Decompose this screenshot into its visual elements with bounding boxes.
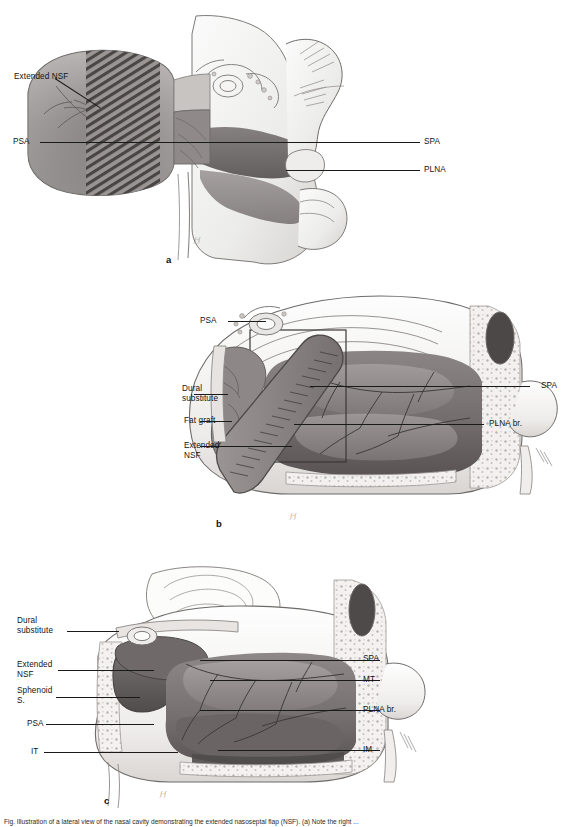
label-psa-a: PSA [13,137,30,147]
leader-extended-nsf-c [58,670,154,671]
leader-sphenoid-sinus-c [56,697,140,698]
label-psa-b: PSA [200,316,217,326]
panel-b-artwork [170,286,581,536]
leader-plna [286,170,420,171]
label-spa-c: SPA [363,654,379,664]
leader-psa [40,142,330,143]
label-plna-br-b: PLNA br. [489,419,522,429]
artist-signature-a: ʃᵕʃ [194,236,201,244]
label-dural-substitute-c: Dural substitute [17,616,53,635]
leader-it-c [44,752,178,753]
leader-plna-br-b [294,424,484,425]
artist-signature-c: ʃᵕʃ [160,790,167,798]
label-mt-c: MT [363,675,375,685]
label-extended-nsf-c: Extended NSF [17,660,52,679]
label-plna-br-c: PLNA br. [363,705,396,715]
leader-spa [290,142,420,143]
label-psa-c: PSA [27,719,44,729]
panel-a-artwork [0,14,581,276]
leader-mt-c [210,680,380,681]
panel-c [60,566,460,810]
leader-psa-c [46,724,154,725]
leader-spa-c [200,660,380,661]
leader-dural-substitute-c [67,631,119,632]
leader-im-c [218,750,380,751]
panel-b [170,286,581,536]
panel-letter-a: a [166,254,171,265]
figure-root: Extended NSF PSA SPA PLNA a ʃᵕʃ [0,0,581,827]
panel-c-artwork [60,566,460,810]
panel-a [0,14,581,276]
panel-letter-c: c [104,795,109,806]
artist-signature-b: ʃᵕʃ [290,512,297,520]
figure-caption: Fig. Illustration of a lateral view of t… [4,818,578,827]
label-spa-a: SPA [424,137,440,147]
label-spa-b: SPA [541,381,557,391]
panel-letter-b: b [216,518,222,529]
label-extended-nsf-b: Extended NSF [184,441,219,460]
label-extended-nsf-a: Extended NSF [14,72,68,82]
label-it-c: IT [31,747,38,757]
label-sphenoid-sinus-c: Sphenoid S. [17,686,52,705]
label-im-c: IM [363,745,372,755]
leader-plna-br-c [200,710,380,711]
leader-psa-b [228,321,266,322]
label-dural-substitute-b: Dural substitute [182,384,218,403]
label-fat-graft-b: Fat graft [184,416,215,426]
leader-spa-b [310,386,530,387]
label-plna-a: PLNA [424,165,446,175]
